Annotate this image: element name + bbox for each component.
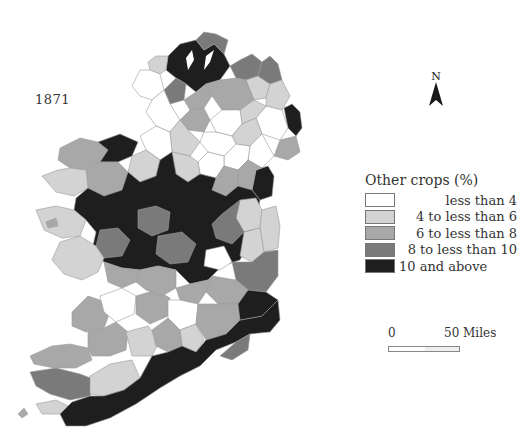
legend-label: 6 to less than 8 — [395, 226, 517, 241]
map-year-label: 1871 — [35, 92, 70, 107]
scale-start-label: 0 — [388, 326, 396, 340]
north-arrow: N — [424, 70, 448, 110]
legend-label: less than 4 — [395, 193, 517, 208]
legend-label: 10 and above — [395, 259, 519, 274]
legend-title: Other crops (%) — [365, 172, 519, 188]
legend: Other crops (%) less than 4 4 to less th… — [365, 172, 519, 275]
north-arrow-icon — [424, 82, 448, 122]
scale-end-label: 50 Miles — [444, 326, 496, 340]
legend-row: less than 4 — [365, 192, 519, 209]
legend-swatch — [365, 226, 395, 240]
legend-row: 4 to less than 6 — [365, 209, 519, 226]
legend-row: 8 to less than 10 — [365, 242, 519, 259]
legend-label: 4 to less than 6 — [395, 209, 517, 224]
legend-label: 8 to less than 10 — [395, 242, 517, 257]
scale-bar-graphic — [388, 346, 460, 352]
scale-bar: 0 50 Miles — [388, 326, 503, 352]
legend-row: 6 to less than 8 — [365, 225, 519, 242]
legend-swatch — [365, 193, 395, 207]
legend-swatch — [365, 243, 395, 257]
legend-swatch — [365, 259, 395, 273]
legend-swatch — [365, 210, 395, 224]
legend-row: 10 and above — [365, 258, 519, 275]
